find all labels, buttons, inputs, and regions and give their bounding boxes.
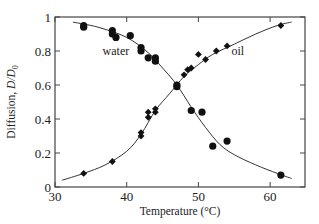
water-data-point [127,32,134,39]
series-label-water: water [103,44,130,58]
oil-data-point [277,22,284,29]
water-data-point [137,47,144,54]
water-data-point [209,143,216,150]
water-data-point [188,107,195,114]
fit-curves [62,22,291,180]
x-axis-label: Temperature (°C) [140,205,221,218]
y-tick-label: 0.6 [35,78,52,93]
y-tick-label: 0.8 [35,44,51,59]
y-tick-label: 0 [45,180,52,195]
axis-ticks: 3040506000.20.40.60.81 [35,10,305,205]
oil-data-point [195,51,202,58]
y-axis-label: Diffusion, D/D0 [5,65,20,138]
series-labels: wateroil [103,44,245,58]
plot-frame [55,17,305,187]
water-data-point [223,138,230,145]
y-tick-label: 0.2 [35,146,51,161]
water-data-point [152,58,159,65]
oil-data-point [80,170,87,177]
oil-data-point [145,109,152,116]
y-tick-label: 0.4 [35,112,52,127]
water-data-point [80,24,87,31]
x-tick-label: 40 [120,189,133,204]
y-tick-label: 1 [45,10,52,25]
x-tick-label: 50 [192,189,205,204]
water-data-point [112,34,119,41]
water-data-point [145,54,152,61]
x-tick-label: 60 [264,189,277,204]
water-data-point [277,172,284,179]
diffusion-chart: 3040506000.20.40.60.81 wateroil Temperat… [0,0,319,224]
plot-border [55,17,305,187]
water-data-point [198,109,205,116]
oil-data-point [181,71,188,78]
series-label-oil: oil [231,44,244,58]
oil-fit-curve [62,22,291,180]
